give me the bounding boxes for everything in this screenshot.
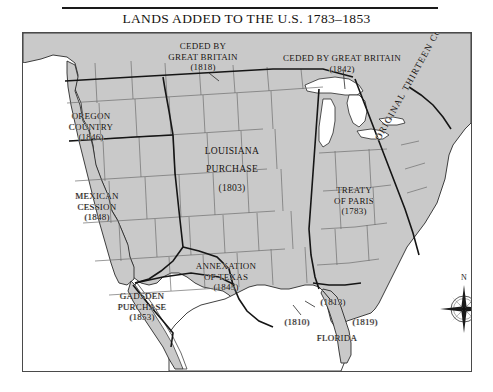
label-line: (1818) [143,62,263,73]
label-ceded-great-britain-1818: CEDED BY GREAT BRITAIN (1818) [143,41,263,73]
label-oregon-country: OREGON COUNTRY (1846) [41,111,141,143]
label-florida-1810: (1810) [273,317,321,328]
label-mexican-cession: MEXICAN CESSION (1848) [47,191,147,223]
label-annexation-of-texas: ANNEXATION OF TEXAS (1845) [165,261,287,293]
label-line: CESSION [47,202,147,213]
page-title: LANDS ADDED TO THE U.S. 1783–1853 [0,11,493,27]
label-florida-1813: (1813) [309,297,357,308]
label-florida-name: FLORIDA [301,333,373,344]
map-page: LANDS ADDED TO THE U.S. 1783–1853 [0,0,493,392]
label-line: ANNEXATION [165,261,287,272]
compass-rose-graphic [438,283,472,335]
label-line: GADSDEN [89,291,195,302]
label-line: OREGON [41,111,141,122]
label-line: CEDED BY [143,41,263,52]
compass-north-label: N [438,273,472,282]
label-line: OF TEXAS [165,272,287,283]
label-florida-1819: (1819) [341,317,389,328]
map-frame: CEDED BY GREAT BRITAIN (1818) CEDED BY G… [22,32,472,372]
label-line: COUNTRY [41,122,141,133]
label-line: OF PARIS [311,196,397,207]
label-louisiana-purchase: LOUISIANA PURCHASE (1803) [177,145,287,193]
label-line: LOUISIANA [177,145,287,156]
label-gadsden-purchase: GADSDEN PURCHASE (1853) [89,291,195,323]
label-line: (1783) [311,206,397,217]
label-line: (1842) [251,64,433,75]
label-line: CEDED BY GREAT BRITAIN [251,53,433,64]
label-line: PURCHASE [89,302,195,313]
label-line: TREATY [311,185,397,196]
label-line: (1853) [89,312,195,323]
label-ceded-great-britain-1842: CEDED BY GREAT BRITAIN (1842) [251,53,433,74]
label-line: (1848) [47,212,147,223]
label-line: PURCHASE [177,163,287,174]
compass-rose: N [438,273,472,335]
label-line: MEXICAN [47,191,147,202]
label-line: GREAT BRITAIN [143,52,263,63]
title-rule [62,7,438,9]
label-line: (1846) [41,132,141,143]
label-treaty-of-paris: TREATY OF PARIS (1783) [311,185,397,217]
label-line: (1803) [177,182,287,193]
